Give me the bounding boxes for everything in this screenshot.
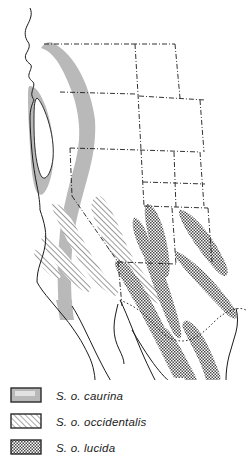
legend-item-lucida[interactable]: S. o. lucida	[11, 440, 115, 454]
legend-item-caurina[interactable]: S. o. caurina	[11, 388, 123, 402]
legend-swatch-lucida	[11, 440, 41, 454]
legend-item-occidentalis[interactable]: S. o. occidentalis	[11, 414, 147, 428]
legend-swatch-occidentalis	[11, 414, 41, 428]
legend-label-occidentalis: S. o. occidentalis	[56, 416, 147, 428]
legend-label-lucida: S. o. lucida	[56, 442, 115, 454]
legend-swatch-caurina-highlight	[15, 391, 35, 396]
subspecies-range-map: S. o. caurina S. o. occidentalis S. o. l…	[0, 0, 246, 466]
legend-label-caurina: S. o. caurina	[56, 390, 123, 402]
map-canvas: S. o. caurina S. o. occidentalis S. o. l…	[0, 0, 246, 466]
